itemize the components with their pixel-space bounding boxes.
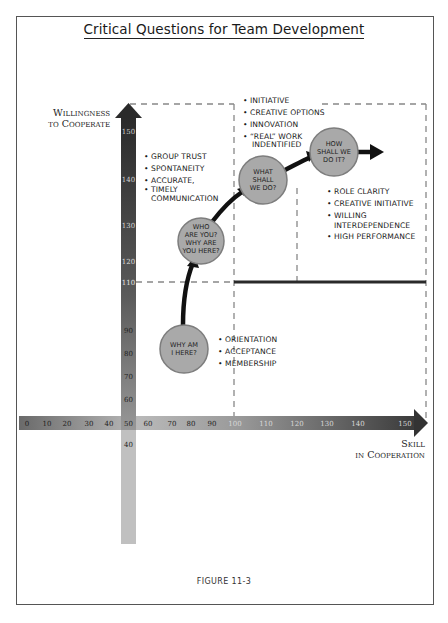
stage4-bullets: ROLE CLARITY CREATIVE INITIATIVE WILLING — [327, 188, 414, 221]
stage3-bullets: INITIATIVE CREATIVE OPTIONS INNOVATION “… — [243, 97, 325, 142]
svg-text:20: 20 — [63, 420, 72, 428]
svg-text:80: 80 — [124, 350, 133, 358]
svg-text:70: 70 — [168, 420, 177, 428]
svg-text:WHO: WHO — [193, 223, 210, 231]
svg-text:130: 130 — [320, 420, 333, 428]
svg-text:40: 40 — [105, 420, 114, 428]
bullet-orientation: ORIENTATION — [218, 336, 277, 345]
bullet-spontaneity: SPONTANEITY — [144, 165, 207, 174]
svg-text:0: 0 — [25, 420, 29, 428]
svg-text:110: 110 — [122, 279, 135, 287]
y-axis-label-line2: to Cooperate — [30, 118, 110, 129]
svg-text:SHALL WE: SHALL WE — [317, 148, 351, 156]
svg-text:WHY AM: WHY AM — [170, 341, 198, 349]
y-axis-ticks-lower: 40 — [124, 441, 133, 449]
svg-text:YOU HERE?: YOU HERE? — [181, 247, 220, 255]
svg-text:60: 60 — [124, 396, 133, 404]
bullet-communication: COMMUNICATION — [151, 195, 219, 204]
svg-text:90: 90 — [208, 420, 217, 428]
svg-text:10: 10 — [43, 420, 52, 428]
bullet-role-clarity: ROLE CLARITY — [327, 188, 414, 197]
svg-text:80: 80 — [187, 420, 196, 428]
svg-text:120: 120 — [290, 420, 303, 428]
bullet-creative-initiative: CREATIVE INITIATIVE — [327, 200, 414, 209]
stage-circle-why-am-i-here: WHY AM I HERE? — [160, 325, 208, 373]
bullet-acceptance: ACCEPTANCE — [218, 348, 277, 357]
svg-text:140: 140 — [351, 420, 364, 428]
svg-text:60: 60 — [144, 420, 153, 428]
stage-circle-what-shall-we-do: WHAT SHALL WE DO? — [239, 156, 287, 204]
bullet-creative-options: CREATIVE OPTIONS — [243, 109, 325, 118]
figure-caption: FIGURE 11-3 — [0, 577, 448, 586]
x-axis-label-line1: Skill — [340, 438, 425, 449]
stage4-bullets-cont: HIGH PERFORMANCE — [327, 233, 415, 242]
bullet-identified: INDENTIFIED — [252, 141, 301, 150]
svg-text:150: 150 — [122, 128, 135, 136]
stage1-bullets: ORIENTATION ACCEPTANCE MEMBERSHIP — [218, 336, 277, 369]
svg-text:WE DO?: WE DO? — [250, 184, 277, 192]
svg-text:ARE YOU?: ARE YOU? — [185, 231, 218, 239]
x-axis-label: Skill in Cooperation — [340, 438, 425, 460]
y-axis-label: Willingness to Cooperate — [30, 107, 110, 129]
y-axis-label-line1: Willingness — [30, 107, 110, 118]
svg-text:SHALL: SHALL — [252, 176, 273, 184]
svg-text:150: 150 — [398, 420, 411, 428]
x-axis-arrow — [19, 409, 428, 437]
bullet-innovation: INNOVATION — [243, 121, 325, 130]
svg-text:I HERE?: I HERE? — [171, 349, 197, 357]
stage2-bullets: GROUP TRUST SPONTANEITY ACCURATE, TIMELY — [144, 153, 207, 195]
svg-text:130: 130 — [122, 222, 135, 230]
bullet-willing: WILLING — [327, 212, 414, 221]
bullet-group-trust: GROUP TRUST — [144, 153, 207, 162]
svg-text:30: 30 — [85, 420, 94, 428]
svg-text:40: 40 — [124, 441, 133, 449]
bullet-membership: MEMBERSHIP — [218, 360, 277, 369]
svg-text:120: 120 — [122, 258, 135, 266]
svg-text:WHY ARE: WHY ARE — [186, 239, 217, 247]
svg-text:DO IT?: DO IT? — [323, 156, 345, 164]
bullet-high-performance: HIGH PERFORMANCE — [327, 233, 415, 242]
svg-text:90: 90 — [124, 327, 133, 335]
svg-text:110: 110 — [259, 420, 272, 428]
svg-text:WHAT: WHAT — [253, 168, 273, 176]
bullet-interdependence: INTERDEPENDENCE — [334, 222, 410, 231]
svg-text:100: 100 — [228, 420, 241, 428]
svg-text:HOW: HOW — [326, 140, 343, 148]
x-axis-label-line2: in Cooperation — [340, 449, 425, 460]
svg-text:50: 50 — [124, 420, 133, 428]
svg-text:140: 140 — [122, 176, 135, 184]
bullet-initiative: INITIATIVE — [243, 97, 325, 106]
svg-text:70: 70 — [124, 373, 133, 381]
stage-circle-who-are-you: WHO ARE YOU? WHY ARE YOU HERE? — [178, 218, 224, 264]
diagram-canvas: 150 140 130 120 110 90 80 70 60 40 30 20… — [0, 0, 448, 623]
